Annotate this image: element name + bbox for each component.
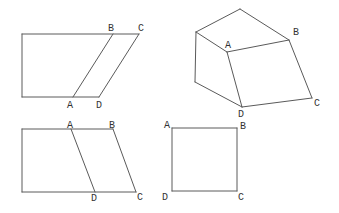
vertex-label-A: A (225, 40, 231, 51)
edge (71, 129, 95, 192)
edge (227, 52, 242, 107)
figure-parallelepiped-box: ABCD (195, 9, 320, 120)
vertex-label-A: A (67, 120, 73, 131)
vertex-label-B: B (293, 27, 299, 38)
vertex-label-C: C (314, 98, 320, 109)
edge (195, 32, 196, 82)
edge (195, 82, 242, 107)
edge (196, 9, 240, 32)
edge (240, 9, 289, 40)
vertex-label-A: A (164, 120, 170, 131)
vertex-label-D: D (91, 193, 97, 204)
edge (113, 129, 136, 192)
geometry-diagram-page: ABCDABCDABCDABCD (0, 0, 339, 213)
edge (73, 34, 113, 97)
vertex-label-D: D (162, 192, 168, 203)
edge (289, 40, 312, 98)
vertex-label-D: D (238, 109, 244, 120)
vertex-label-A: A (67, 100, 73, 111)
vertex-label-C: C (138, 23, 144, 34)
vertex-label-B: B (108, 23, 114, 34)
vertex-label-B: B (240, 121, 246, 132)
edge (242, 98, 312, 107)
figure-square: ABCD (162, 120, 246, 203)
vertex-label-C: C (137, 192, 143, 203)
vertex-label-B: B (109, 120, 115, 131)
edge (227, 40, 289, 52)
edge (196, 32, 227, 52)
figure-trapezoid-with-parallelogram-left-leaning: ABCD (22, 23, 144, 111)
edge (99, 34, 139, 97)
diagram-canvas: ABCDABCDABCDABCD (0, 0, 339, 213)
figure-trapezoid-with-parallelogram-right-leaning: ABCD (22, 120, 143, 204)
vertex-label-D: D (96, 100, 102, 111)
vertex-label-C: C (238, 192, 244, 203)
